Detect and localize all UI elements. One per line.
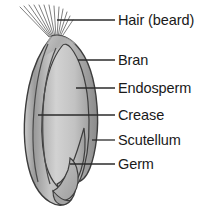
- label-crease: Crease: [118, 108, 164, 123]
- label-bran: Bran: [118, 53, 148, 68]
- label-germ: Germ: [118, 157, 154, 172]
- label-scutellum: Scutellum: [118, 133, 181, 148]
- hair-bristles-icon: [20, 5, 73, 38]
- grain-illustration: [0, 0, 211, 216]
- label-hair-beard: Hair (beard): [118, 13, 194, 28]
- wheat-grain-diagram: Hair (beard) Bran Endosperm Crease Scute…: [0, 0, 211, 216]
- label-endosperm: Endosperm: [118, 81, 191, 96]
